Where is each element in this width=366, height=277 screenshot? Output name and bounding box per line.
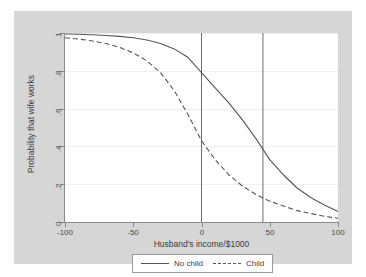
legend-swatch-solid-icon <box>141 263 169 264</box>
legend-swatch-dashed-icon <box>213 263 241 264</box>
chart-screenshot: 0.2.4.6.81 -100-50050100 Probability tha… <box>0 0 366 277</box>
legend-entry-no-child: No child <box>141 259 203 268</box>
x-axis-title: Husband's income/$1000 <box>65 239 338 249</box>
data-curves <box>14 11 352 264</box>
legend-entry-child: Child <box>213 259 264 268</box>
legend-label-no-child: No child <box>174 259 203 268</box>
legend: No child Child <box>132 254 273 273</box>
legend-label-child: Child <box>246 259 264 268</box>
figure-background: 0.2.4.6.81 -100-50050100 Probability tha… <box>14 11 352 264</box>
y-axis-title: Probability that wife works <box>26 44 36 204</box>
